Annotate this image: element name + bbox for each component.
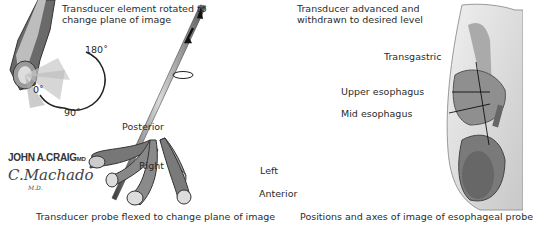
posterior-label: Posterior [122,121,164,132]
signature-md: M.D. [28,184,43,191]
mid-esophagus-label: Mid esophagus [341,108,412,119]
probe-flex-caption: Transducer probe flexed to change plane … [36,211,275,222]
signature-craig: JOHN A.CRAIGMD [8,152,86,163]
anterior-label: Anterior [259,188,297,199]
angle-180-label: 180˚ [85,44,108,55]
advance-label-line1: Transducer advanced and [297,3,419,14]
esophageal-anatomy-illustration [447,4,523,210]
rotation-label-line2: change plane of image [62,14,171,25]
rotate-arrow-icon [173,72,193,79]
advance-label-line2: withdrawn to desired level [297,14,423,25]
upper-esophagus-label: Upper esophagus [341,86,424,97]
left-label: Left [260,165,278,176]
probe-positions-caption: Positions and axes of image of esophagea… [300,211,533,222]
angle-90-label: 90˚ [64,107,81,118]
right-label: Right [139,160,164,171]
rotation-label-line1: Transducer element rotated to [62,3,207,14]
angle-0-label: 0˚ [33,84,44,95]
signature-machado: C.Machado [8,166,94,184]
transgastric-label: Transgastric [384,51,441,62]
probe-shaft-illustration [89,5,206,205]
